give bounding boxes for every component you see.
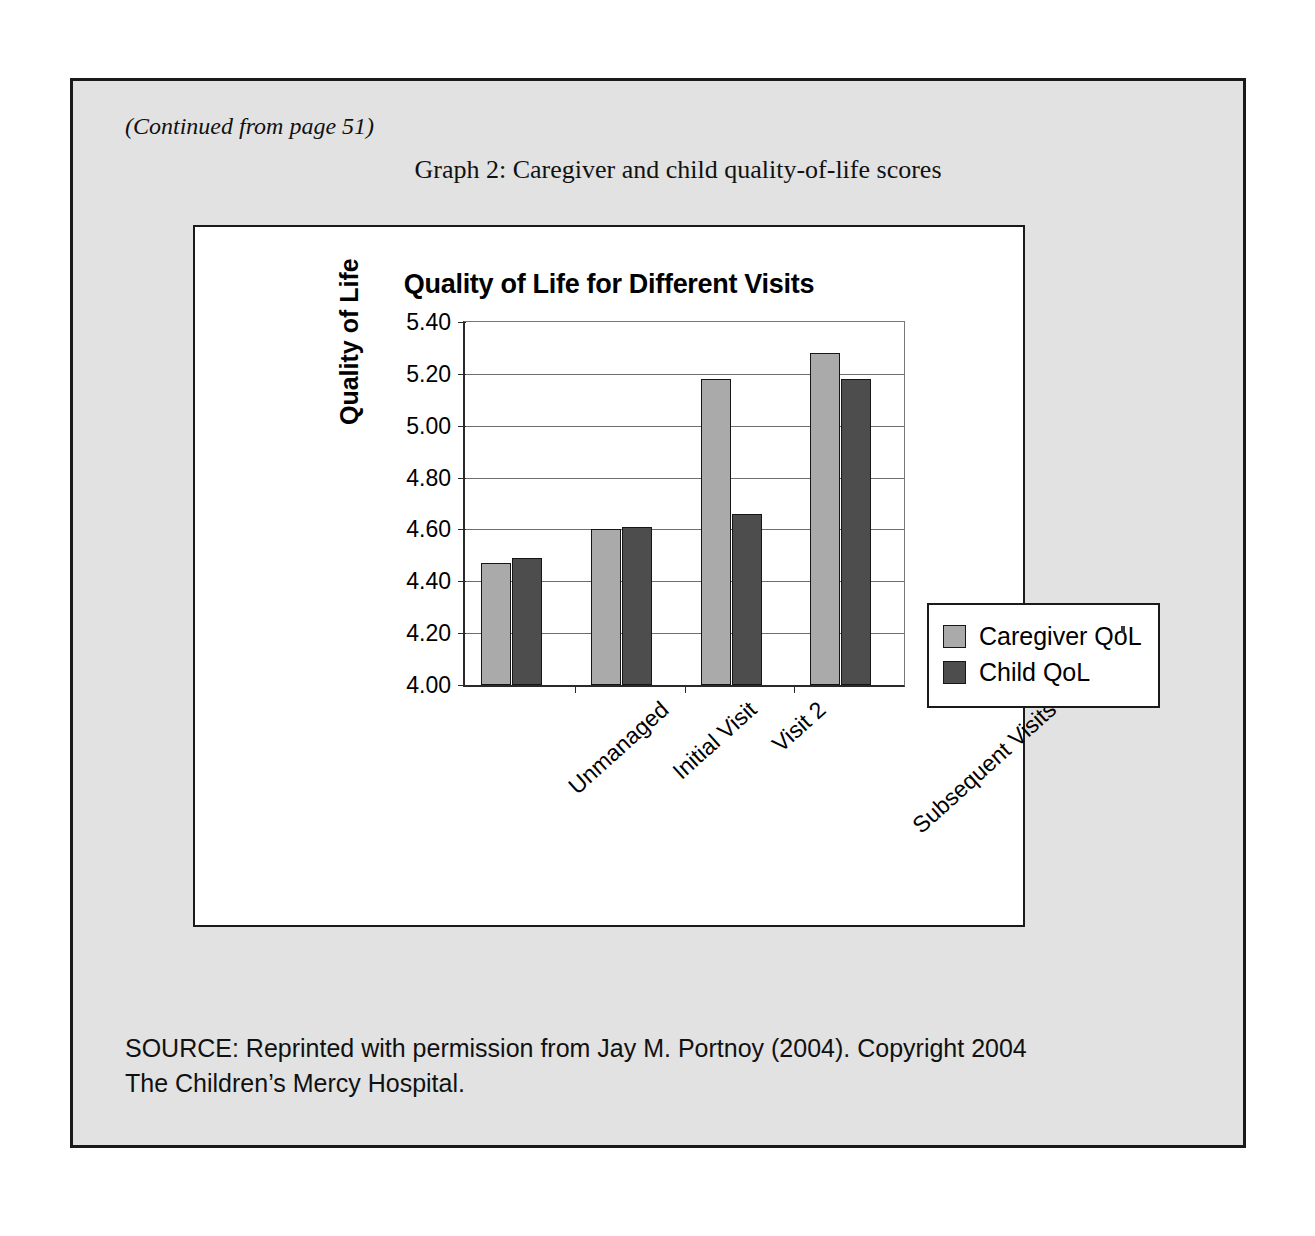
bar-caregiver[interactable] bbox=[481, 563, 511, 685]
bar-child[interactable] bbox=[622, 527, 652, 685]
bar-caregiver[interactable] bbox=[701, 379, 731, 685]
bar-child[interactable] bbox=[732, 514, 762, 685]
y-tick-label: 4.80 bbox=[406, 464, 451, 491]
x-tick-mark bbox=[685, 685, 686, 693]
document-page-frame: (Continued from page 51) Graph 2: Caregi… bbox=[70, 78, 1246, 1148]
y-tick-label: 4.40 bbox=[406, 568, 451, 595]
x-axis-label: Initial Visit bbox=[667, 696, 762, 785]
chart-legend: Caregiver QoL Child QoL bbox=[927, 603, 1160, 708]
legend-label-caregiver: Caregiver QoL bbox=[979, 622, 1142, 651]
x-tick-mark bbox=[575, 685, 576, 693]
continued-from-note: (Continued from page 51) bbox=[125, 113, 374, 140]
bar-group bbox=[465, 322, 575, 685]
y-tick-label: 5.00 bbox=[406, 412, 451, 439]
source-note-line-2: The Children’s Mercy Hospital. bbox=[125, 1066, 1185, 1101]
stray-ink-mark bbox=[1121, 626, 1125, 633]
chart-title: Quality of Life for Different Visits bbox=[195, 269, 1023, 300]
legend-item-child: Child QoL bbox=[943, 658, 1142, 687]
bar-group bbox=[575, 322, 685, 685]
bar-group bbox=[685, 322, 795, 685]
x-axis-label: Unmanaged bbox=[563, 696, 674, 800]
legend-label-child: Child QoL bbox=[979, 658, 1090, 687]
x-axis-label: Subsequent Visits bbox=[907, 696, 1062, 839]
chart-panel: Quality of Life for Different Visits Qua… bbox=[193, 225, 1025, 927]
bar-child[interactable] bbox=[512, 558, 542, 685]
legend-swatch-caregiver-icon bbox=[943, 625, 966, 648]
source-note: SOURCE: Reprinted with permission from J… bbox=[125, 1031, 1185, 1100]
source-note-line-1: SOURCE: Reprinted with permission from J… bbox=[125, 1031, 1185, 1066]
y-tick-label: 4.60 bbox=[406, 516, 451, 543]
bar-group bbox=[794, 322, 904, 685]
y-tick-label: 5.40 bbox=[406, 309, 451, 336]
y-axis-title: Quality of Life bbox=[335, 258, 364, 425]
x-axis-label: Visit 2 bbox=[767, 696, 831, 758]
bar-caregiver[interactable] bbox=[591, 529, 621, 685]
x-tick-mark bbox=[794, 685, 795, 693]
plot-area: 5.405.205.004.804.604.404.204.00 bbox=[463, 321, 905, 687]
bar-caregiver[interactable] bbox=[810, 353, 840, 685]
y-tick-label: 4.00 bbox=[406, 672, 451, 699]
legend-item-caregiver: Caregiver QoL bbox=[943, 622, 1142, 651]
y-tick-label: 4.20 bbox=[406, 620, 451, 647]
bar-child[interactable] bbox=[841, 379, 871, 685]
y-tick-mark bbox=[458, 685, 466, 686]
legend-swatch-child-icon bbox=[943, 661, 966, 684]
y-tick-label: 5.20 bbox=[406, 360, 451, 387]
figure-caption: Graph 2: Caregiver and child quality-of-… bbox=[73, 155, 1243, 185]
